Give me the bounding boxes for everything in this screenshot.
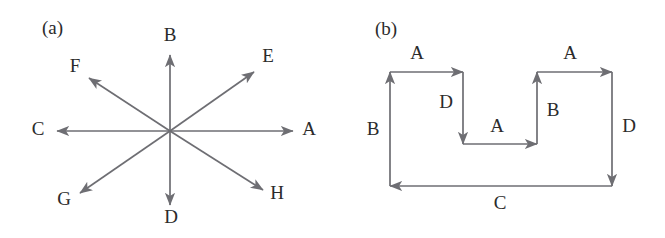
panel-a-tag: (a) bbox=[42, 17, 63, 39]
path-label-0-a: A bbox=[410, 42, 424, 63]
vector-arrow-f bbox=[89, 78, 170, 131]
panel-a-label-group: ABCDEFGH bbox=[32, 24, 316, 227]
vector-arrow-h bbox=[170, 131, 263, 190]
vector-label-f: F bbox=[70, 55, 81, 76]
path-label-2-a: A bbox=[490, 115, 504, 136]
vector-label-g: G bbox=[57, 188, 71, 209]
vector-label-h: H bbox=[270, 182, 284, 203]
path-label-5-d: D bbox=[622, 115, 636, 136]
panel-a-canvas: ABCDEFGH (a) bbox=[0, 0, 333, 238]
vector-label-c: C bbox=[32, 118, 45, 139]
path-label-4-a: A bbox=[563, 42, 577, 63]
vector-label-e: E bbox=[262, 45, 274, 66]
panel-a-star-vectors: ABCDEFGH (a) bbox=[0, 0, 333, 238]
figure-root: ABCDEFGH (a) ADABADCB (b) bbox=[0, 0, 665, 238]
panel-b-label-group: ADABADCB bbox=[367, 42, 636, 213]
vector-label-d: D bbox=[164, 206, 178, 227]
vector-arrow-g bbox=[80, 131, 170, 193]
vector-label-b: B bbox=[164, 24, 177, 45]
panel-b-tag: (b) bbox=[375, 18, 397, 40]
path-label-1-d: D bbox=[439, 91, 453, 112]
panel-b-orthogonal-path: ADABADCB (b) bbox=[333, 0, 665, 238]
path-label-3-b: B bbox=[547, 99, 560, 120]
path-label-7-b: B bbox=[367, 118, 380, 139]
vector-label-a: A bbox=[302, 118, 316, 139]
path-label-6-c: C bbox=[494, 192, 507, 213]
panel-a-vector-group bbox=[57, 55, 293, 205]
panel-b-canvas: ADABADCB (b) bbox=[333, 0, 665, 238]
vector-arrow-e bbox=[170, 72, 254, 131]
